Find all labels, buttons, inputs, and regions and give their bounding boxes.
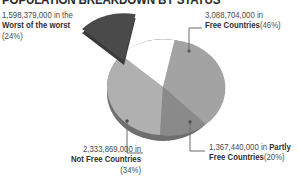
callout-notfree-name: Not Free Countries <box>71 155 141 164</box>
callout-notfree-percent: (34%) <box>120 166 141 175</box>
callout-free-percent: (46%) <box>260 21 281 30</box>
callout-partly-percent: (20%) <box>264 153 285 162</box>
callout-partly-name2: Free Countries <box>209 153 264 162</box>
callout-worst-name: Worst of the worst <box>2 21 70 30</box>
callout-free-countries[interactable]: 3,088,704,000 in Free Countries(46%) <box>205 11 281 32</box>
callout-partly-free-countries[interactable]: 1,367,440,000 in Partly Free Countries(2… <box>209 143 291 164</box>
callout-worst-percent: (24%) <box>2 32 23 41</box>
callout-worst-value: 1,598,379,000 in the <box>2 11 73 20</box>
chart-canvas: POPULATION BREAKDOWN BY STATUS <box>0 0 298 190</box>
callout-not-free-countries[interactable]: 2,333,869,000 in Not Free Countries (34%… <box>35 145 141 176</box>
callout-worst-of-the-worst[interactable]: 1,598,379,000 in the Worst of the worst … <box>2 11 73 42</box>
callout-partly-value: 1,367,440,000 in <box>209 143 267 152</box>
callout-free-name: Free Countries <box>205 21 260 30</box>
callout-notfree-value: 2,333,869,000 in <box>83 145 141 154</box>
callout-free-value: 3,088,704,000 in <box>205 11 263 20</box>
callout-partly-name: Partly <box>269 143 291 152</box>
